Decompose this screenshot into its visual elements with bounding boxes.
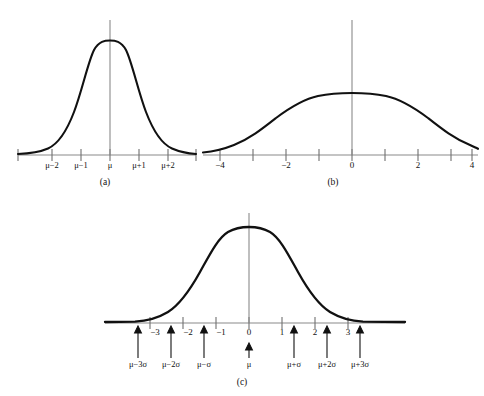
panel-a-plot — [0, 0, 200, 170]
panel-a-curve — [18, 41, 196, 155]
panel-c-tick-label-3: 0 — [247, 328, 252, 337]
panel-b-tick-label-0: −4 — [215, 161, 225, 170]
panel-b-tick-label-4: 4 — [470, 161, 475, 170]
panel-c-caption: (c) — [237, 378, 248, 388]
panel-c-tick-label-4: 1 — [280, 328, 285, 337]
normal-distribution-figure: μ−2 μ−1 μ μ+1 μ+2 (a) −4 −2 0 — [0, 0, 484, 396]
panel-a: μ−2 μ−1 μ μ+1 μ+2 (a) — [0, 0, 200, 198]
panel-b-caption: (b) — [327, 178, 338, 188]
panel-c-tick-label-6: 3 — [346, 328, 351, 337]
panel-b-tick-label-3: 2 — [416, 161, 421, 170]
panel-c-tick-label-5: 2 — [313, 328, 318, 337]
panel-a-tick-label-2: μ — [108, 161, 113, 170]
panel-a-caption: (a) — [100, 178, 111, 188]
panel-b-plot — [200, 0, 484, 170]
panel-c-annotation-label-6: μ+3σ — [351, 360, 369, 369]
panel-c: −3 −2 −1 0 1 2 3 μ−3σ μ−2σ μ−σ μ μ+σ μ+2… — [60, 200, 440, 396]
panel-a-tick-label-1: μ−1 — [74, 161, 88, 170]
panel-c-annotation-label-1: μ−2σ — [162, 360, 180, 369]
panel-b-tick-label-1: −2 — [281, 161, 291, 170]
panel-c-tick-label-1: −2 — [183, 328, 193, 337]
panel-c-annotation-label-2: μ−σ — [197, 360, 211, 369]
panel-b-tick-label-2: 0 — [350, 161, 355, 170]
panel-b-curve — [203, 93, 478, 153]
panel-c-annotation-label-5: μ+2σ — [318, 360, 336, 369]
panel-a-tick-label-4: μ+2 — [161, 161, 175, 170]
panel-c-tick-label-2: −1 — [216, 328, 226, 337]
panel-c-annotation-label-0: μ−3σ — [129, 360, 147, 369]
panel-b: −4 −2 0 2 4 (b) — [200, 0, 484, 198]
panel-c-annotation-label-3: μ — [247, 360, 252, 369]
panel-c-annotation-label-4: μ+σ — [287, 360, 301, 369]
panel-a-tick-label-3: μ+1 — [132, 161, 146, 170]
panel-a-tick-label-0: μ−2 — [45, 161, 59, 170]
panel-c-curve — [105, 227, 405, 322]
panel-c-tick-label-0: −3 — [150, 328, 160, 337]
